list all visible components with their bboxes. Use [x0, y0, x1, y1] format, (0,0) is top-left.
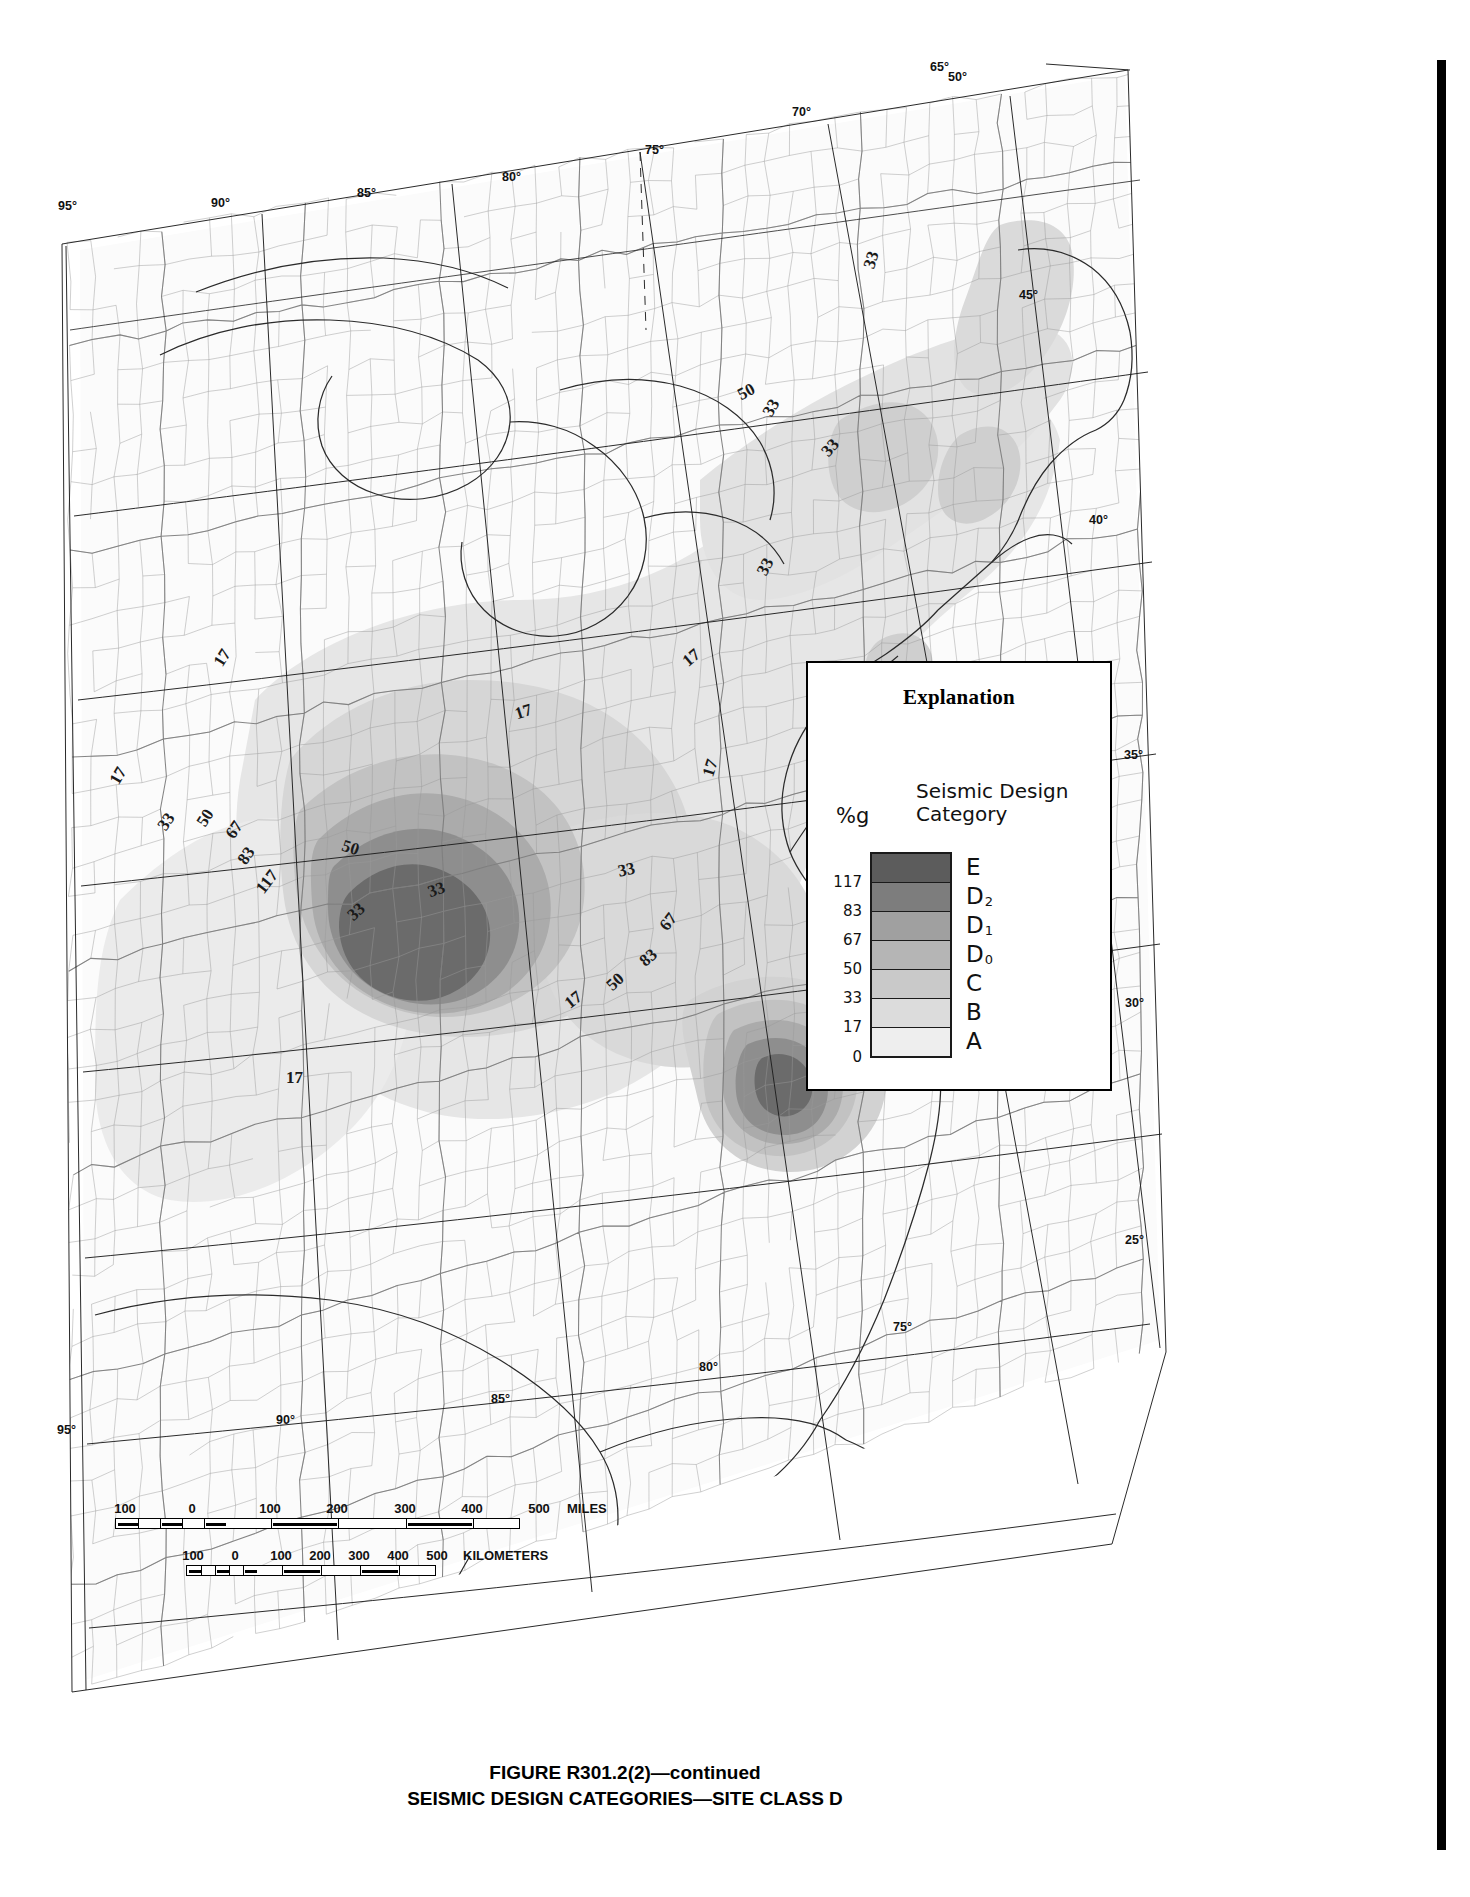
scale-km-numbers: 1000100200300400500KILOMETERS [186, 1548, 436, 1565]
scale-km-tick-6: 500 [426, 1548, 448, 1563]
legend-tick-50: 50 [843, 960, 862, 978]
scale-km-tick-1: 0 [231, 1548, 238, 1563]
contour-label-gulfcoast-17: 17 [286, 1068, 303, 1088]
scale-km-tick-2: 100 [270, 1548, 292, 1563]
scale-bar-kilometers: 1000100200300400500KILOMETERS [186, 1548, 436, 1576]
lon-label-65-top: 65° [930, 60, 949, 74]
legend-category-label-E: E [966, 854, 981, 880]
caption-line-2: SEISMIC DESIGN CATEGORIES—SITE CLASS D [0, 1786, 1250, 1812]
legend-tick-0: 0 [852, 1048, 862, 1066]
legend-tick-117: 117 [833, 873, 862, 891]
lon-label-80-top: 80° [502, 170, 521, 184]
scale-km-bar [186, 1565, 436, 1576]
scale-miles-tick-5: 400 [461, 1501, 483, 1516]
scale-miles-tick-6: 500 [528, 1501, 550, 1516]
lat-label-25: 25° [1125, 1233, 1144, 1247]
lat-label-30: 30° [1125, 996, 1144, 1010]
scale-miles-tick-0: 100 [114, 1501, 136, 1516]
lon-label-95-bottom: 95° [57, 1423, 76, 1437]
legend-category-label-C: C [966, 970, 982, 996]
legend-category-header: Seismic Design Category [916, 780, 1068, 826]
lon-label-75-top: 75° [645, 143, 664, 157]
figure-caption: FIGURE R301.2(2)—continued SEISMIC DESIG… [0, 1760, 1250, 1811]
lon-label-75-bottom: 75° [893, 1320, 912, 1334]
scale-miles-tick-4: 300 [394, 1501, 416, 1516]
legend-swatch-C: 50C [872, 970, 950, 999]
legend-swatch-D0: 67D0 [872, 941, 950, 970]
legend-swatch-A: 17A0 [872, 1028, 950, 1056]
scale-km-unit-label: KILOMETERS [463, 1548, 548, 1563]
legend-category-label-D2: D2 [966, 883, 992, 909]
lat-label-40: 40° [1089, 513, 1108, 527]
legend-tick-17: 17 [843, 1018, 862, 1036]
lat-label-35: 35° [1124, 748, 1143, 762]
scale-km-tick-3: 200 [309, 1548, 331, 1563]
lon-label-90-bottom: 90° [276, 1413, 295, 1427]
lon-label-90-top: 90° [211, 196, 230, 210]
lat-label-50: 50° [948, 70, 967, 84]
legend-swatch-D1: 83D1 [872, 912, 950, 941]
lon-label-70-top: 70° [792, 105, 811, 119]
legend-percent-g-label: %g [836, 804, 869, 828]
scale-km-tick-0: 100 [182, 1548, 204, 1563]
lon-label-95-top: 95° [58, 199, 77, 213]
seismic-hazard-map [0, 0, 1470, 1720]
scale-miles-bar [115, 1518, 520, 1529]
legend-tick-67: 67 [843, 931, 862, 949]
scale-miles-numbers: 1000100200300400500MILES [115, 1501, 520, 1518]
legend-category-label-A: A [966, 1028, 982, 1054]
scale-bar-miles: 1000100200300400500MILES [115, 1501, 520, 1529]
legend-swatch-E: E [872, 854, 950, 883]
lon-label-85-bottom: 85° [491, 1392, 510, 1406]
scale-km-tick-4: 300 [348, 1548, 370, 1563]
legend-swatch-D2: 117D2 [872, 883, 950, 912]
legend-title: Explanation [808, 685, 1110, 710]
legend-tick-33: 33 [843, 989, 862, 1007]
legend-category-label-D1: D1 [966, 912, 992, 938]
legend-tick-83: 83 [843, 902, 862, 920]
explanation-legend: Explanation %g Seismic Design Category E… [806, 661, 1112, 1091]
caption-line-1: FIGURE R301.2(2)—continued [0, 1760, 1250, 1786]
legend-swatch-B: 33B [872, 999, 950, 1028]
lon-label-80-bottom: 80° [699, 1360, 718, 1374]
figure-page: 95° 90° 85° 80° 75° 70° 65° 50° 45° 40° … [0, 0, 1470, 1897]
scale-miles-tick-2: 100 [259, 1501, 281, 1516]
lat-label-45: 45° [1019, 288, 1038, 302]
scale-miles-unit-label: MILES [567, 1501, 607, 1516]
legend-swatch-column: E117D283D167D050C33B17A0 [870, 852, 952, 1058]
legend-body: %g Seismic Design Category E117D283D167D… [808, 732, 1110, 1072]
scale-km-tick-5: 400 [387, 1548, 409, 1563]
scale-miles-tick-3: 200 [326, 1501, 348, 1516]
legend-category-label-B: B [966, 999, 982, 1025]
lon-label-85-top: 85° [357, 186, 376, 200]
scale-miles-tick-1: 0 [188, 1501, 195, 1516]
legend-category-label-D0: D0 [966, 941, 992, 967]
